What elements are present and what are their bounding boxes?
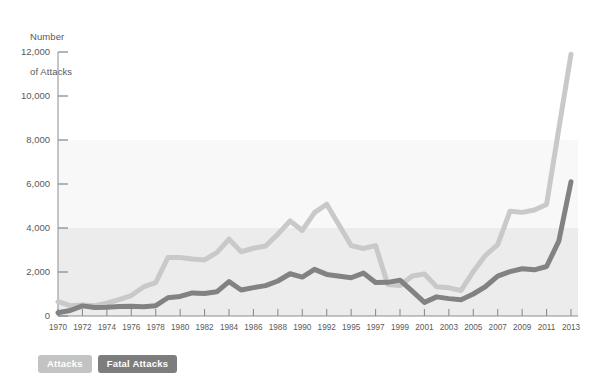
x-tick-label-1982: 1982 <box>195 323 214 332</box>
chart-legend: Attacks Fatal Attacks <box>38 355 177 373</box>
y-tick-label-6000: 6,000 <box>26 178 50 189</box>
x-tick-label-1999: 1999 <box>391 323 410 332</box>
x-tick-label-2009: 2009 <box>513 323 532 332</box>
x-tick-label-1980: 1980 <box>171 323 190 332</box>
shaded-band-4000-8000 <box>58 140 578 228</box>
legend-item-attacks[interactable]: Attacks <box>38 355 92 373</box>
x-tick-label-1992: 1992 <box>318 323 337 332</box>
x-tick-label-1988: 1988 <box>269 323 288 332</box>
x-axis-tick-labels: 1970197219741976197819801982198419861988… <box>49 323 581 332</box>
x-tick-label-1976: 1976 <box>122 323 141 332</box>
x-tick-label-1978: 1978 <box>147 323 166 332</box>
x-tick-label-2011: 2011 <box>538 323 556 332</box>
y-tick-label-0: 0 <box>45 310 50 321</box>
y-tick-label-2000: 2,000 <box>26 266 50 277</box>
y-tick-label-8000: 8,000 <box>26 134 50 145</box>
x-tick-label-1995: 1995 <box>342 323 361 332</box>
x-tick-label-1986: 1986 <box>244 323 263 332</box>
x-tick-label-2007: 2007 <box>489 323 508 332</box>
legend-item-fatal-attacks[interactable]: Fatal Attacks <box>98 355 177 373</box>
y-tick-label-4000: 4,000 <box>26 222 50 233</box>
x-tick-label-2001: 2001 <box>415 323 434 332</box>
x-tick-label-2005: 2005 <box>464 323 483 332</box>
x-tick-label-1997: 1997 <box>366 323 385 332</box>
y-tick-label-12000: 12,000 <box>21 46 50 57</box>
plot-area: 02,0004,0006,0008,00010,00012,000 197019… <box>0 0 596 388</box>
x-tick-label-1970: 1970 <box>49 323 68 332</box>
x-tick-label-2003: 2003 <box>440 323 459 332</box>
x-tick-label-1984: 1984 <box>220 323 239 332</box>
attacks-chart: Number of Attacks 02,0004,0006,0008,0001… <box>0 0 596 388</box>
x-tick-label-1990: 1990 <box>293 323 312 332</box>
x-tick-label-2013: 2013 <box>562 323 581 332</box>
y-axis-tick-labels: 02,0004,0006,0008,00010,00012,000 <box>21 46 50 321</box>
x-tick-label-1974: 1974 <box>98 323 117 332</box>
x-tick-label-1972: 1972 <box>73 323 92 332</box>
y-tick-label-10000: 10,000 <box>21 90 50 101</box>
